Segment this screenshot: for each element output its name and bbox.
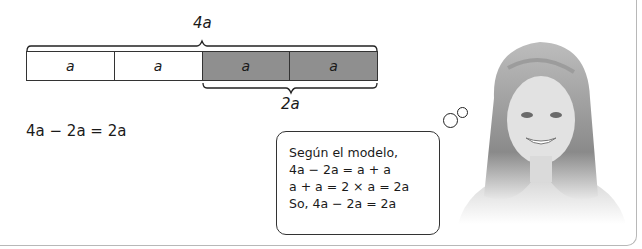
bubble-line: So, 4a − 2a = 2a xyxy=(289,195,439,212)
total-label: 4a xyxy=(193,14,212,32)
part-label: 2a xyxy=(281,95,300,113)
equation: 4a − 2a = 2a xyxy=(26,122,126,140)
bubble-line: Según el modelo, xyxy=(289,144,439,161)
bar-segment-shaded: a xyxy=(203,52,291,80)
bubble-line: 4a − 2a = a + a xyxy=(289,161,439,178)
bar-segment: a xyxy=(27,52,115,80)
girl-illustration xyxy=(448,28,636,224)
bubble-line: a + a = 2 × a = 2a xyxy=(289,178,439,195)
bar-segment: a xyxy=(115,52,203,80)
bar-model: a a a a xyxy=(26,51,378,81)
bar-segment-shaded: a xyxy=(290,52,377,80)
thought-bubble: Según el modelo, 4a − 2a = a + a a + a =… xyxy=(276,131,440,235)
bottom-brace xyxy=(202,82,378,94)
